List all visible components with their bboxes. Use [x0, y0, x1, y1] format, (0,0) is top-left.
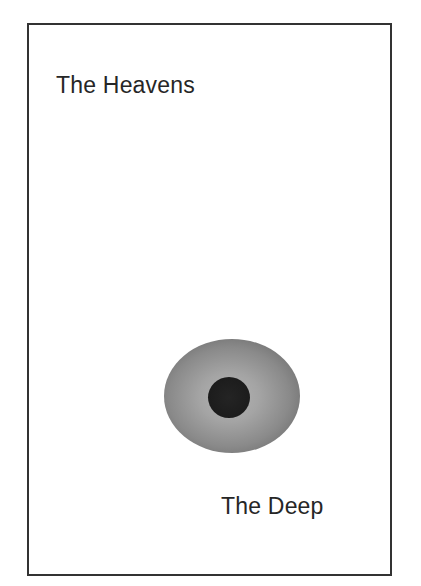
deep-label: The Deep — [221, 495, 324, 518]
deep-center-disc — [208, 377, 250, 418]
heavens-label: The Heavens — [56, 74, 195, 97]
figure-frame — [27, 23, 392, 576]
